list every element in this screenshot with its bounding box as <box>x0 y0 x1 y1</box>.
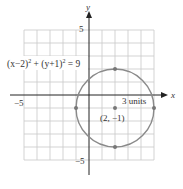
y-axis-arrow-icon <box>86 11 92 18</box>
circle-graph: y x 5 −5 −5 (x−2)2 + (y+1)2 = 9 3 units … <box>0 0 183 189</box>
center-point <box>113 106 117 110</box>
x-axis-label: x <box>170 90 175 100</box>
y-min-tick: −5 <box>75 156 85 166</box>
y-axis-label: y <box>85 2 90 12</box>
y-max-tick: 5 <box>79 24 84 34</box>
center-label: (2, −1) <box>100 113 125 123</box>
x-axis-arrow-icon <box>161 92 168 98</box>
equation-label: (x−2)2 + (y+1)2 = 9 <box>7 58 81 70</box>
x-min-tick: −5 <box>14 98 24 108</box>
radius-label: 3 units <box>122 96 147 106</box>
